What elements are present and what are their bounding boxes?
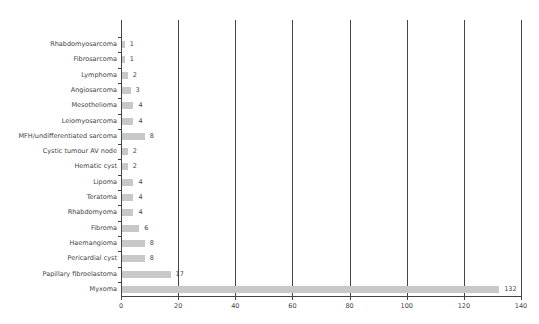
- category-label: Rhabdomyoma: [68, 208, 117, 216]
- value-label: 4: [138, 193, 142, 201]
- y-tick: [118, 52, 121, 53]
- x-tick-label: 0: [119, 302, 123, 310]
- gridline: [407, 20, 408, 296]
- y-tick: [118, 98, 121, 99]
- value-label: 4: [138, 117, 142, 125]
- category-label: Haemangioma: [69, 239, 117, 247]
- bar: [122, 225, 139, 232]
- gridline: [235, 20, 236, 296]
- y-tick: [118, 159, 121, 160]
- y-tick: [118, 267, 121, 268]
- category-label: Lymphoma: [81, 71, 117, 79]
- category-label: Fibrosarcoma: [74, 55, 117, 63]
- value-label: 132: [504, 285, 516, 293]
- y-tick: [118, 205, 121, 206]
- category-label: Hematic cyst: [74, 162, 117, 170]
- x-tick: [521, 296, 522, 300]
- category-label: Leiomyosarcoma: [62, 117, 117, 125]
- category-label: Fibroma: [91, 224, 117, 232]
- value-label: 3: [136, 86, 140, 94]
- x-tick-label: 80: [345, 302, 353, 310]
- y-tick: [118, 129, 121, 130]
- gridline: [464, 20, 465, 296]
- y-tick: [118, 251, 121, 252]
- bar: [122, 179, 133, 186]
- category-label: Mesothelioma: [71, 101, 117, 109]
- value-label: 1: [130, 55, 134, 63]
- category-label: Angiosarcoma: [71, 86, 117, 94]
- x-axis: [121, 296, 521, 297]
- value-label: 4: [138, 101, 142, 109]
- value-label: 17: [176, 270, 184, 278]
- category-label: Rhabdomyosarcoma: [50, 40, 117, 48]
- x-tick-label: 120: [458, 302, 470, 310]
- y-tick: [118, 68, 121, 69]
- value-label: 6: [144, 224, 148, 232]
- bar: [122, 271, 171, 278]
- gridline: [178, 20, 179, 296]
- bar-chart: 020406080100120140Rhabdomyosarcoma1Fibro…: [0, 0, 539, 324]
- gridline: [350, 20, 351, 296]
- y-tick: [118, 190, 121, 191]
- value-label: 4: [138, 178, 142, 186]
- bar: [122, 194, 133, 201]
- gridline: [521, 20, 522, 296]
- category-label: Myxoma: [90, 285, 117, 293]
- x-tick-label: 20: [174, 302, 182, 310]
- y-tick: [118, 144, 121, 145]
- value-label: 8: [150, 132, 154, 140]
- value-label: 4: [138, 208, 142, 216]
- y-tick: [118, 282, 121, 283]
- x-tick-label: 60: [288, 302, 296, 310]
- bar: [122, 72, 128, 79]
- category-label: Cystic tumour AV node: [43, 147, 117, 155]
- y-tick: [118, 175, 121, 176]
- bar: [122, 148, 128, 155]
- bar: [122, 41, 125, 48]
- bar: [122, 87, 131, 94]
- category-label: Lipoma: [93, 178, 117, 186]
- y-tick: [118, 114, 121, 115]
- bar: [122, 240, 145, 247]
- value-label: 8: [150, 254, 154, 262]
- value-label: 2: [133, 71, 137, 79]
- category-label: Teratoma: [87, 193, 117, 201]
- category-label: Pericardial cyst: [68, 254, 117, 262]
- value-label: 2: [133, 162, 137, 170]
- bar: [122, 255, 145, 262]
- y-tick: [118, 221, 121, 222]
- bar: [122, 102, 133, 109]
- x-tick-label: 40: [231, 302, 239, 310]
- y-tick: [118, 83, 121, 84]
- y-tick: [118, 236, 121, 237]
- value-label: 8: [150, 239, 154, 247]
- bar: [122, 56, 125, 63]
- y-tick: [118, 37, 121, 38]
- bar: [122, 286, 499, 293]
- bar: [122, 209, 133, 216]
- value-label: 2: [133, 147, 137, 155]
- bar: [122, 133, 145, 140]
- category-label: MFH/undifferentiated sarcoma: [18, 132, 117, 140]
- bar: [122, 118, 133, 125]
- bar: [122, 163, 128, 170]
- gridline: [292, 20, 293, 296]
- value-label: 1: [130, 40, 134, 48]
- x-tick-label: 140: [515, 302, 527, 310]
- category-label: Papillary fibroelastoma: [43, 270, 117, 278]
- x-tick-label: 100: [400, 302, 412, 310]
